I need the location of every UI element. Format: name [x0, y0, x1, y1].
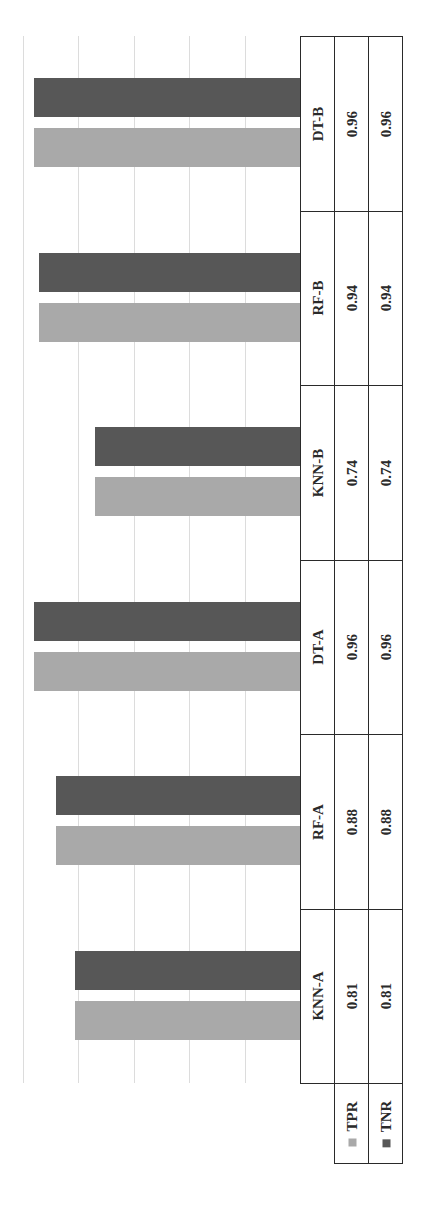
rotated-bar-chart: KNN-A0.810.81RF-A0.880.88DT-A0.960.96KNN…: [0, 0, 423, 1210]
category-label-cell: KNN-A: [300, 909, 335, 1085]
bar-tpr-rf-b: [39, 303, 300, 342]
bar-tpr-dt-a: [34, 652, 300, 691]
bar-tpr-dt-b: [34, 128, 300, 167]
cell-text: 0.81: [343, 983, 360, 1009]
cell-text: 0.96: [377, 634, 394, 660]
bar-tpr-knn-b: [95, 477, 300, 516]
cell-text: DT-A: [309, 630, 326, 665]
bar-tpr-rf-a: [56, 826, 300, 865]
category-label-cell: DT-B: [300, 36, 335, 212]
tnr-value-cell: 0.96: [368, 36, 403, 212]
bar-tnr-knn-a: [75, 951, 300, 990]
cell-text: 0.96: [377, 111, 394, 137]
gridline: [134, 36, 135, 1083]
tpr-value-cell: 0.96: [334, 36, 369, 212]
tpr-value-cell: 0.96: [334, 560, 369, 736]
legend-tpr: TPR: [343, 1101, 360, 1146]
bar-tnr-rf-a: [56, 776, 300, 815]
tpr-value-cell: 0.88: [334, 734, 369, 910]
legend-label: TPR: [343, 1101, 360, 1131]
legend-tpr-cell: TPR: [334, 1083, 369, 1164]
cell-text: 0.94: [377, 285, 394, 311]
category-label-cell: DT-A: [300, 560, 335, 736]
bar-tnr-rf-b: [39, 253, 300, 292]
cell-text: 0.81: [377, 983, 394, 1009]
cell-text: KNN-B: [309, 449, 326, 497]
gridline: [189, 36, 190, 1083]
tnr-value-cell: 0.88: [368, 734, 403, 910]
gridline: [245, 36, 246, 1083]
tpr-value-cell: 0.81: [334, 909, 369, 1085]
category-label-cell: RF-A: [300, 734, 335, 910]
cell-text: DT-B: [309, 107, 326, 141]
tnr-value-cell: 0.94: [368, 211, 403, 387]
tnr-value-cell: 0.74: [368, 385, 403, 561]
cell-text: 0.96: [343, 634, 360, 660]
tnr-value-cell: 0.81: [368, 909, 403, 1085]
gridline: [78, 36, 79, 1083]
cell-text: RF-A: [309, 804, 326, 840]
category-label-cell: RF-B: [300, 211, 335, 387]
legend-tnr-cell: TNR: [368, 1083, 403, 1164]
legend-label: TNR: [377, 1100, 394, 1132]
category-label-cell: KNN-B: [300, 385, 335, 561]
cell-text: KNN-A: [309, 972, 326, 1021]
legend-swatch-icon: [348, 1138, 356, 1146]
bar-tnr-dt-a: [34, 602, 300, 641]
tnr-value-cell: 0.96: [368, 560, 403, 736]
legend-swatch-icon: [382, 1139, 390, 1147]
cell-text: RF-B: [309, 281, 326, 316]
cell-text: 0.88: [377, 809, 394, 835]
cell-text: 0.74: [343, 460, 360, 486]
bar-tnr-dt-b: [34, 78, 300, 117]
cell-text: 0.96: [343, 111, 360, 137]
legend-tnr: TNR: [377, 1100, 394, 1147]
bar-tnr-knn-b: [95, 427, 300, 466]
bar-tpr-knn-a: [75, 1001, 300, 1040]
cell-text: 0.94: [343, 285, 360, 311]
gridline: [23, 36, 24, 1083]
cell-text: 0.88: [343, 809, 360, 835]
tpr-value-cell: 0.74: [334, 385, 369, 561]
cell-text: 0.74: [377, 460, 394, 486]
tpr-value-cell: 0.94: [334, 211, 369, 387]
